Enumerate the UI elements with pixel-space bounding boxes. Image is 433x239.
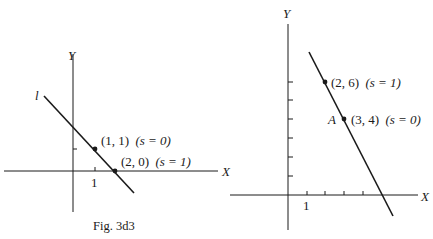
left-line-label: l [35,88,39,103]
right-x-ticks [307,191,363,195]
right-y-ticks [288,82,293,176]
left-point-2-coords: (2, 0) (s = 1) [121,154,191,169]
figure-canvas: Y X l 1 (1, 1) (s = 0) (2, 0) (s = 1) Fi… [0,0,433,239]
left-y-axis-label: Y [68,48,77,63]
left-x-tick-label: 1 [91,175,98,190]
right-point-2-6 [323,80,328,85]
left-x-axis-label: X [221,164,231,179]
left-point-1-coords: (1, 1) (s = 0) [101,133,171,148]
right-point-name-A: A [327,112,336,127]
right-figure [230,24,418,230]
right-point-2-coords: (3, 4) (s = 0) [351,112,421,127]
left-point-1-1 [93,147,98,152]
right-point-A-3-4 [342,117,347,122]
right-y-axis-label: Y [283,6,292,21]
right-point-1-coords: (2, 6) (s = 1) [331,75,401,90]
right-x-axis-label: X [420,189,430,204]
left-point-2-0 [113,169,118,174]
right-x-tick-label: 1 [303,198,310,213]
figure-caption: Fig. 3d3 [93,219,135,233]
